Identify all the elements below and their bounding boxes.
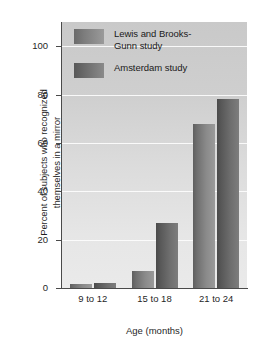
plot-area: Lewis and Brooks- Gunn study Amsterdam s…	[62, 22, 247, 288]
y-axis-tick-label: 100	[8, 41, 48, 51]
legend-label: Lewis and Brooks- Gunn study	[114, 28, 191, 51]
bar	[70, 284, 92, 288]
bar-chart-figure: Percent of subjects who recognized thems…	[0, 0, 254, 350]
y-axis-tick-label: 0	[8, 283, 48, 293]
bar	[132, 271, 154, 288]
y-axis-tick-label: 20	[8, 235, 48, 245]
legend-swatch-icon	[74, 63, 104, 78]
x-axis-title: Age (months)	[62, 325, 247, 336]
legend-item: Amsterdam study	[74, 62, 242, 78]
y-axis-tick-label: 80	[8, 90, 48, 100]
legend-label: Amsterdam study	[114, 62, 187, 74]
gridline	[62, 95, 247, 96]
x-axis-tick-labels: 9 to 1215 to 1821 to 24	[0, 293, 254, 313]
y-axis-tick-label: 40	[8, 186, 48, 196]
bar	[217, 99, 239, 288]
legend-swatch-icon	[74, 29, 104, 44]
x-axis-tick-label: 21 to 24	[176, 293, 254, 304]
y-axis-tick-label: 60	[8, 138, 48, 148]
legend-item: Lewis and Brooks- Gunn study	[74, 28, 242, 51]
bar	[156, 223, 178, 288]
bar	[193, 124, 215, 288]
x-axis-line	[61, 288, 248, 289]
legend: Lewis and Brooks- Gunn study Amsterdam s…	[74, 28, 242, 89]
bar	[94, 283, 116, 288]
